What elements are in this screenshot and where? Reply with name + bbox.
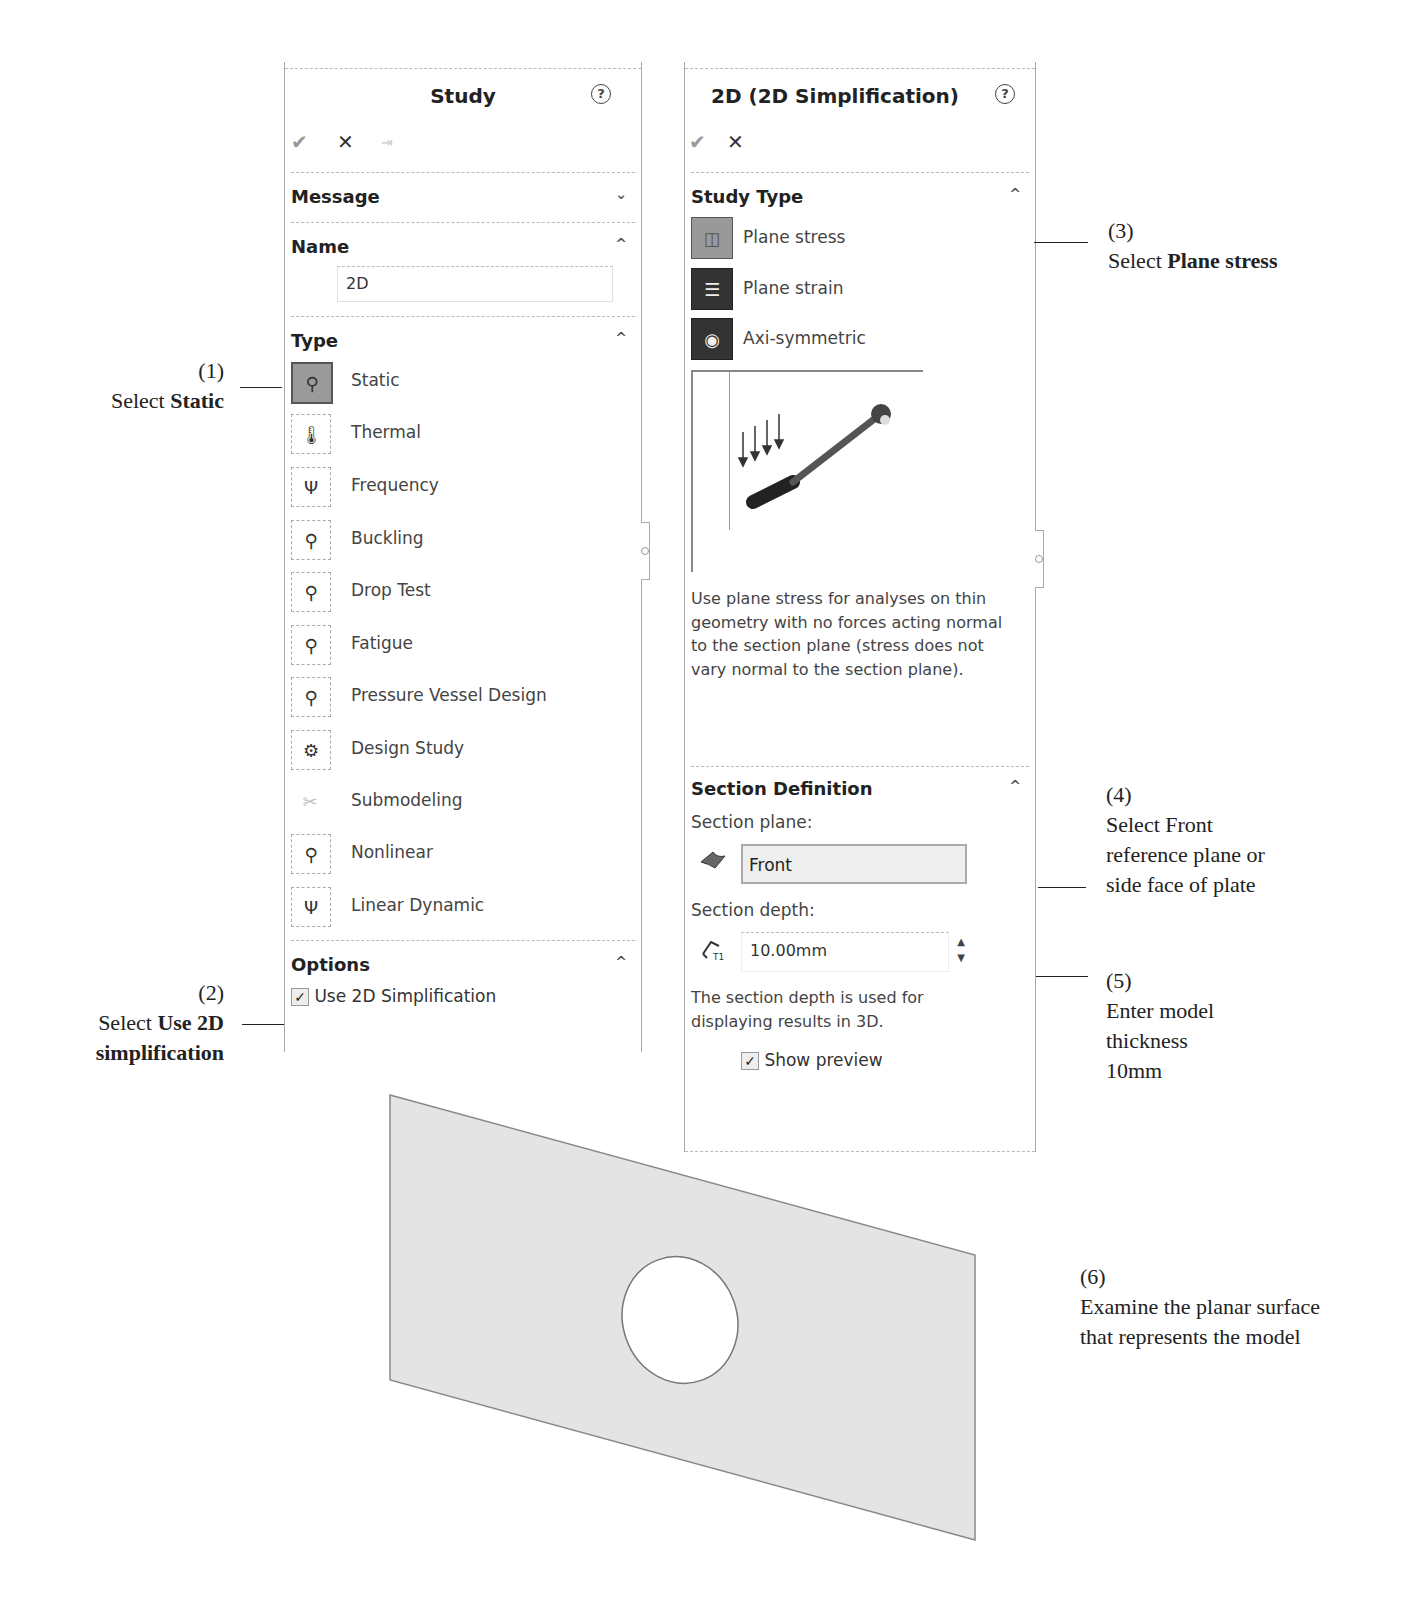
annotation-number: (2) (40, 978, 224, 1008)
annotation-text: side face of plate (1106, 870, 1265, 900)
annotation-text: simplification (40, 1038, 224, 1068)
annotation-3: (3) Select Plane stress (1108, 216, 1277, 276)
leader-line (1038, 887, 1086, 888)
leader-line (1036, 976, 1088, 977)
annotation-text: that represents the model (1080, 1322, 1320, 1352)
annotation-number: (6) (1080, 1262, 1320, 1292)
annotation-text: reference plane or (1106, 840, 1265, 870)
annotation-text: 10mm (1106, 1056, 1214, 1086)
annotation-number: (4) (1106, 780, 1265, 810)
annotation-2: (2) Select Use 2D simplification (40, 978, 224, 1068)
annotation-text: Examine the planar surface (1080, 1292, 1320, 1322)
annotation-4: (4) Select Front reference plane or side… (1106, 780, 1265, 900)
annotation-text: Select Use 2D (40, 1008, 224, 1038)
annotation-text: Select Static (60, 386, 224, 416)
annotation-1: (1) Select Static (60, 356, 224, 416)
annotation-text: Select Plane stress (1108, 246, 1277, 276)
annotation-text: Enter model (1106, 996, 1214, 1026)
annotation-number: (3) (1108, 216, 1277, 246)
annotation-text: thickness (1106, 1026, 1214, 1056)
annotation-6: (6) Examine the planar surface that repr… (1080, 1262, 1320, 1352)
leader-line (242, 1024, 284, 1025)
leader-line (1034, 242, 1088, 243)
annotation-number: (1) (60, 356, 224, 386)
annotation-text: Select Front (1106, 810, 1265, 840)
leader-line (240, 387, 282, 388)
annotation-5: (5) Enter model thickness 10mm (1106, 966, 1214, 1086)
annotation-number: (5) (1106, 966, 1214, 996)
